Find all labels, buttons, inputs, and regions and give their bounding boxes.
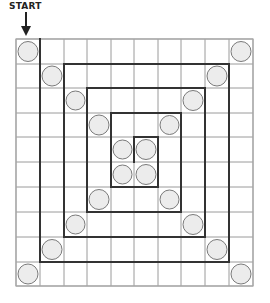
board-circle-token bbox=[136, 165, 156, 185]
board-circle-token bbox=[18, 42, 38, 62]
board-circle-token bbox=[231, 264, 251, 284]
board-circle-token bbox=[18, 264, 38, 284]
board-circle-token bbox=[207, 66, 227, 86]
board-circle-token bbox=[183, 215, 203, 235]
board-circle-token bbox=[66, 215, 85, 234]
board-circle-token bbox=[136, 140, 156, 160]
board-circle-token bbox=[113, 165, 132, 184]
board-circle-token bbox=[89, 190, 109, 210]
board-circle-token bbox=[231, 42, 251, 62]
board-circle-token bbox=[183, 91, 203, 111]
board-circle-token bbox=[66, 91, 85, 110]
spiral-grid-board bbox=[0, 0, 270, 303]
board-circle-token bbox=[160, 116, 179, 135]
board-circle-token bbox=[207, 240, 227, 260]
board-circle-token bbox=[113, 140, 132, 159]
board-circle-token bbox=[89, 115, 109, 135]
board-circle-token bbox=[42, 240, 62, 260]
board-circle-token bbox=[42, 66, 62, 86]
board-circle-token bbox=[160, 190, 179, 209]
